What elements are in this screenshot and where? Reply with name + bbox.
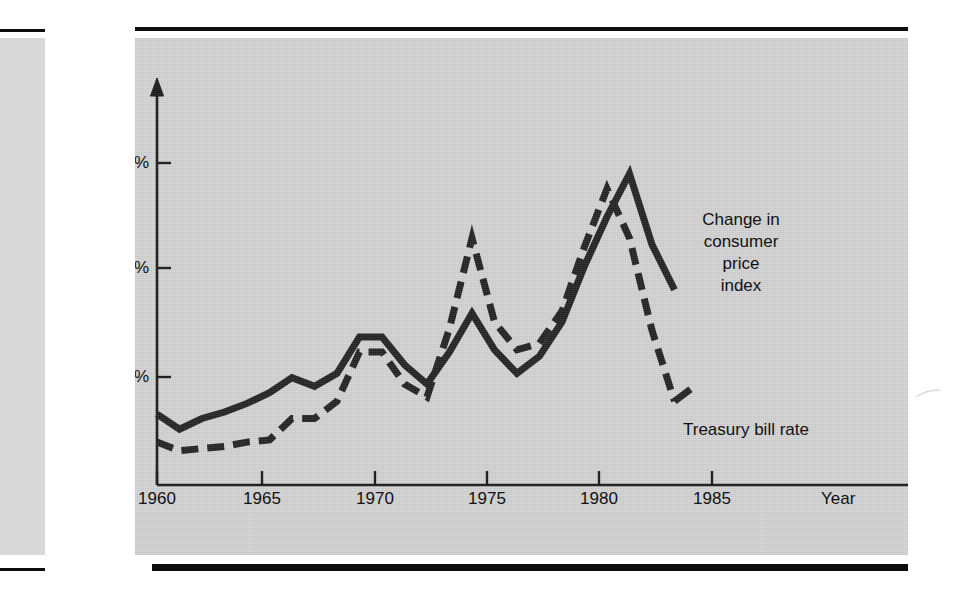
x-tick-label-1975: 1975 xyxy=(459,489,515,509)
x-tick-label-1965: 1965 xyxy=(234,489,290,509)
adjacent-panel-fragment xyxy=(0,38,45,555)
x-tick-label-1985: 1985 xyxy=(684,489,740,509)
y-tick-label-15: 15% xyxy=(135,153,149,173)
page-smudge-mark xyxy=(915,389,941,399)
series-label-tbill: Treasury bill rate xyxy=(683,419,809,441)
y-axis-title: Annual rate (%) xyxy=(135,71,161,111)
x-tick-label-1960: 1960 xyxy=(135,489,185,509)
y-axis xyxy=(151,78,164,485)
figure-page: Annual rate (%) 15% 10% 5% 1960 1965 197… xyxy=(0,0,958,604)
page-rule-bottom xyxy=(152,564,908,571)
page-rule-top xyxy=(135,27,908,31)
x-tick-marks xyxy=(157,471,712,485)
y-tick-label-10: 10% xyxy=(135,258,149,278)
x-axis-title: Year xyxy=(821,489,855,509)
tbill-label-leader xyxy=(675,389,691,401)
y-tick-label-5: 5% xyxy=(135,367,149,387)
chart-panel: Annual rate (%) 15% 10% 5% 1960 1965 197… xyxy=(135,38,908,555)
page-rule-left-top xyxy=(0,29,45,32)
page-rule-left-bottom xyxy=(0,568,45,571)
y-tick-marks xyxy=(157,163,171,377)
series-label-cpi: Change in consumer price index xyxy=(681,209,801,297)
x-tick-label-1970: 1970 xyxy=(347,489,403,509)
x-tick-label-1980: 1980 xyxy=(571,489,627,509)
